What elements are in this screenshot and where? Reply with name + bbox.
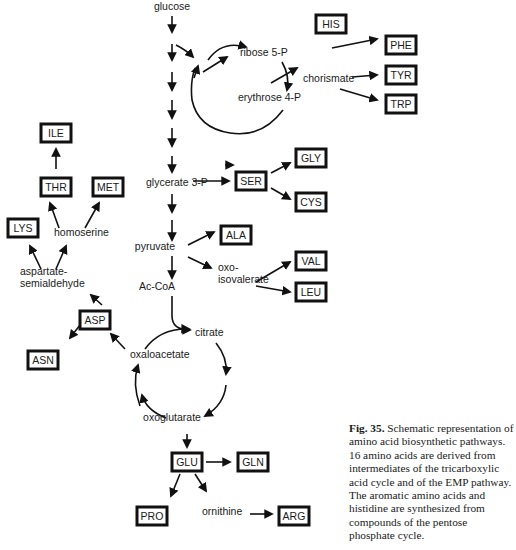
amino-acid-label: VAL [301,255,320,267]
pathway-arrow [271,188,290,199]
amino-acid-label: SER [240,175,262,187]
amino-acid-box-cys: CYS [296,193,326,211]
pathway-arrow [256,286,290,292]
amino-acid-box-tyr: TYR [386,66,416,84]
amino-acid-label: TRP [391,98,412,110]
amino-acid-box-ser: SER [236,172,266,190]
pathway-arrow [195,474,206,491]
amino-acid-box-thr: THR [41,178,71,196]
amino-acid-label: ILE [48,127,64,139]
amino-acid-label: ASP [84,314,105,326]
amino-acid-label: LEU [301,286,321,298]
amino-acid-label: GLN [242,456,264,468]
pathway-arrow [85,203,99,228]
amino-acid-label: ARG [283,510,306,522]
amino-acid-label: PRO [141,510,164,522]
amino-acid-label: GLY [301,152,321,164]
intermediate-aspsemi_2: semialdehyde [20,277,85,289]
amino-acid-box-trp: TRP [386,95,416,113]
amino-acid-box-asp: ASP [80,311,110,329]
pathway-arrow [171,474,180,496]
pathway-arrow [91,295,102,305]
pentose-phosphate-cycle [191,45,287,134]
amino-acid-label: ASN [32,354,54,366]
caption-text: Schematic representation of amino acid b… [349,422,513,541]
pathway-arrow [332,39,377,48]
amino-acid-label: PHE [390,39,412,51]
pathway-arrow [176,45,193,57]
amino-acid-box-his: HIS [316,15,346,33]
amino-acid-box-val: VAL [296,252,326,270]
pathway-arrow [203,57,227,72]
amino-acid-label: MET [97,181,120,193]
pathway-arrow [271,68,297,83]
amino-acid-label: GLU [176,456,198,468]
pathway-arrow [352,75,377,77]
amino-acid-box-ile: ILE [41,124,71,142]
intermediate-ornithine: ornithine [202,505,242,517]
amino-acid-label: ALA [226,229,246,241]
intermediate-ribose5p: ribose 5-P [240,46,288,58]
amino-acid-label: LYS [13,222,32,234]
amino-acid-box-phe: PHE [386,36,416,54]
figure-label: Fig. 35. [349,422,384,434]
pathway-arrow [271,163,290,173]
intermediate-oxoisovalerate_1: oxo- [218,261,239,273]
intermediate-oxoglutarate: oxoglutarate [143,411,201,423]
pathway-arrow [50,203,59,228]
amino-acid-box-met: MET [93,178,123,196]
amino-acid-box-glu: GLU [172,453,202,471]
amino-acid-box-gln: GLN [238,453,268,471]
intermediate-chorismate: chorismate [303,72,355,84]
amino-acid-box-gly: GLY [296,149,326,167]
pathway-arrow [188,232,214,245]
intermediate-erythrose4p: erythrose 4-P [238,91,301,103]
figure-caption: Fig. 35. Schematic representation of ami… [349,422,514,543]
amino-acid-box-asn: ASN [28,351,58,369]
intermediate-glucose: glucose [154,0,190,12]
amino-acid-box-arg: ARG [279,507,309,525]
intermediate-aspsemi_1: aspartate- [20,265,68,277]
amino-acid-box-lys: LYS [8,219,38,237]
intermediate-glycerate3p: glycerate 3-P [146,176,208,188]
amino-acid-label: HIS [322,18,340,30]
amino-acid-label: THR [45,181,67,193]
intermediate-acCoA: Ac-CoA [139,280,175,292]
intermediate-homoserine: homoserine [54,226,109,238]
intermediate-citrate: citrate [195,326,224,338]
intermediate-oxaloacetate: oxaloacetate [130,348,190,360]
amino-acid-label: CYS [300,196,322,208]
amino-acid-box-leu: LEU [296,283,326,301]
amino-acid-box-ala: ALA [221,226,251,244]
pathway-arrow [111,334,125,349]
intermediate-pyruvate: pyruvate [135,240,175,252]
amino-acid-box-pro: PRO [137,507,167,525]
pathway-arrow [188,257,211,268]
amino-acid-label: TYR [391,69,412,81]
intermediate-oxoisovalerate_2: isovalerate [218,273,269,285]
pathway-arrow [340,89,377,100]
